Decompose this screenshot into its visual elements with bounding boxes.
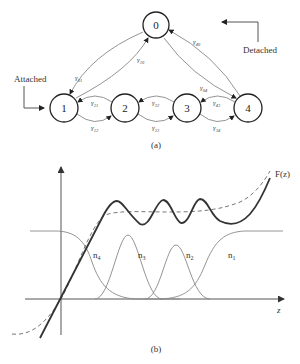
detached-label: Detached bbox=[243, 45, 277, 55]
attached-label: Attached bbox=[14, 74, 47, 84]
curve-n1 bbox=[160, 231, 283, 299]
attached-arrow bbox=[24, 86, 44, 108]
curve-F bbox=[40, 178, 270, 338]
edge-4-to-0 bbox=[169, 30, 240, 96]
label-n1: n1 bbox=[228, 250, 236, 261]
node-3: 3 bbox=[173, 94, 201, 122]
chart-b: F(z) z n4 n3 n2 n1 (b) bbox=[12, 167, 290, 354]
rate-label-g10: γ10 bbox=[137, 56, 145, 65]
rate-label-g43: γ43 bbox=[213, 99, 221, 108]
edge-2-to-1 bbox=[78, 96, 112, 102]
curve-n3 bbox=[95, 235, 162, 299]
edge-3-to-2 bbox=[139, 96, 174, 102]
label-z: z bbox=[276, 305, 281, 315]
label-n3: n3 bbox=[138, 250, 146, 261]
rate-label-g21: γ21 bbox=[91, 99, 98, 108]
rate-label-g23: γ23 bbox=[152, 124, 160, 133]
caption-a: (a) bbox=[151, 140, 161, 150]
edge-0-to-1 bbox=[70, 32, 143, 94]
edge-1-to-0 bbox=[76, 38, 148, 98]
node-4: 4 bbox=[234, 94, 262, 122]
rate-label-g01: γ01 bbox=[75, 74, 82, 83]
node-label: 3 bbox=[184, 102, 190, 114]
edge-3-to-4 bbox=[200, 114, 234, 122]
rate-label-g32: γ32 bbox=[152, 99, 160, 108]
node-label: 2 bbox=[122, 102, 128, 114]
node-label: 1 bbox=[61, 102, 67, 114]
state-diagram: 0 1 2 3 4 γ01 γ10 γ40 γ04 γ21 γ12 γ32 γ2… bbox=[14, 12, 277, 150]
label-n2: n2 bbox=[186, 250, 194, 261]
node-label: 4 bbox=[245, 102, 251, 114]
edge-1-to-2 bbox=[77, 114, 111, 122]
node-2: 2 bbox=[111, 94, 139, 122]
node-1: 1 bbox=[50, 94, 78, 122]
rate-label-g04: γ04 bbox=[200, 84, 208, 93]
label-F: F(z) bbox=[275, 169, 290, 179]
node-0: 0 bbox=[143, 12, 169, 38]
node-label: 0 bbox=[153, 19, 159, 31]
detached-arrow bbox=[222, 22, 258, 42]
edge-4-to-3 bbox=[201, 96, 235, 102]
curve-n2 bbox=[145, 245, 210, 299]
edge-2-to-3 bbox=[138, 114, 173, 122]
rate-label-g34: γ34 bbox=[213, 124, 221, 133]
figure: 0 1 2 3 4 γ01 γ10 γ40 γ04 γ21 γ12 γ32 γ2… bbox=[0, 0, 300, 364]
caption-b: (b) bbox=[151, 344, 162, 354]
rate-label-g40: γ40 bbox=[193, 38, 201, 47]
label-n4: n4 bbox=[93, 250, 101, 261]
rate-label-g12: γ12 bbox=[91, 124, 99, 133]
